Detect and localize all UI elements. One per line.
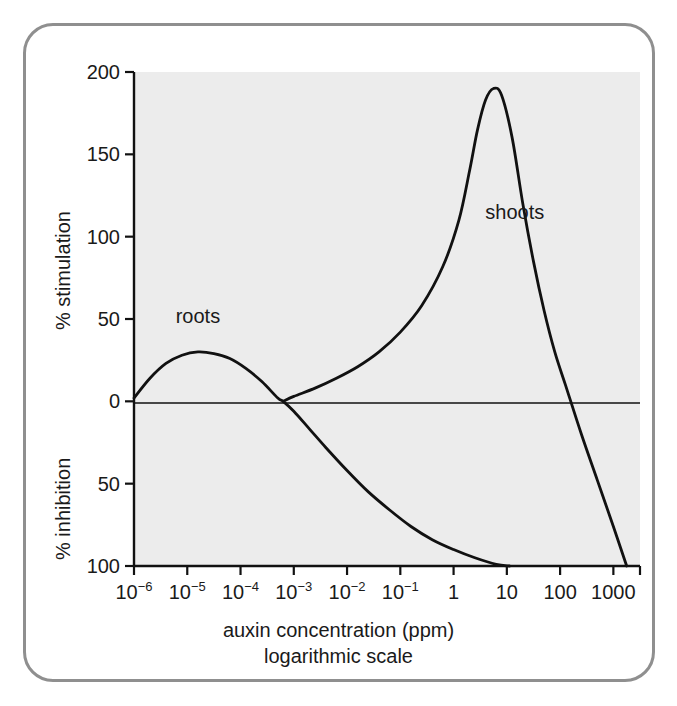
y-axis-title-stimulation: % stimulation [52,211,75,330]
x-tick-label: 10−5 [169,582,206,602]
curve-label-roots: roots [176,304,220,327]
x-axis-title-line2: logarithmic scale [0,645,677,668]
curve-label-shoots: shoots [485,200,544,223]
x-tick-label: 10−4 [222,582,259,602]
curve-shoots [283,88,627,566]
x-tick-label: 10−3 [275,582,312,602]
x-tick-label: 10−6 [115,582,152,602]
y-tick-label: 200 [60,62,120,82]
y-tick-label: 150 [60,144,120,164]
y-axis-title-inhibition: % inhibition [52,458,75,560]
x-tick-label: 10 [496,582,518,602]
x-tick-label: 10−2 [329,582,366,602]
x-axis-ticks [134,566,640,575]
chart-plot-area: 20015010050050100 10−610−510−410−310−210… [0,0,677,706]
y-axis-ticks [125,72,134,566]
x-tick-label: 10−1 [382,582,419,602]
x-tick-label: 1000 [591,582,636,602]
x-axis-title-line1: auxin concentration (ppm) [0,619,677,642]
x-tick-label: 1 [448,582,459,602]
y-tick-label: 0 [60,391,120,411]
x-tick-label: 100 [543,582,576,602]
